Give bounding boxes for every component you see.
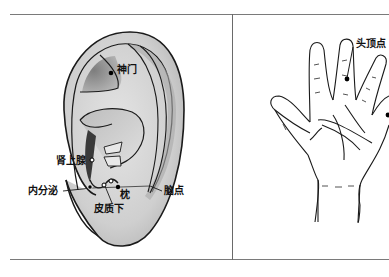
- label-toudingdian: 头顶点: [356, 39, 386, 49]
- label-shenmen: 神门: [117, 65, 137, 75]
- label-naodian: 脑点: [164, 186, 184, 196]
- point-shenmen: [109, 71, 114, 76]
- ear-panel: 神门 肾上腺 内分泌 皮质下 枕 脑点: [0, 15, 232, 259]
- hand-illustration: [233, 15, 389, 259]
- label-shenshangxian: 肾上腺: [56, 156, 86, 166]
- label-pizhixia: 皮质下: [94, 204, 124, 214]
- ear-illustration: [0, 15, 232, 259]
- label-neifenmi: 内分泌: [28, 186, 58, 196]
- frame-bottom-rule: [10, 259, 389, 260]
- hand-panel: 头顶点: [233, 15, 389, 259]
- label-zhen: 枕: [120, 190, 130, 200]
